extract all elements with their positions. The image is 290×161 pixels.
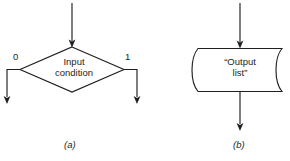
decision-right-branch-arrow <box>124 70 140 105</box>
tape-text-line-2: list” <box>214 68 266 79</box>
decision-left-branch-arrow <box>4 70 20 105</box>
branch-label-zero: 0 <box>13 52 18 63</box>
diagram-a-group <box>4 3 141 104</box>
flowchart-figure: 0 1 Input condition “Output list” (a) (b… <box>0 0 290 161</box>
caption-a: (a) <box>64 140 76 151</box>
decision-text-line-2: condition <box>48 68 100 79</box>
caption-b: (b) <box>233 140 245 151</box>
decision-input-arrow <box>69 3 76 48</box>
tape-text: “Output list” <box>214 57 266 78</box>
tape-input-arrow <box>237 3 244 49</box>
decision-text: Input condition <box>48 57 100 78</box>
flowchart-vector-layer <box>0 0 290 161</box>
tape-output-arrow <box>237 92 244 132</box>
branch-label-one: 1 <box>125 52 130 63</box>
